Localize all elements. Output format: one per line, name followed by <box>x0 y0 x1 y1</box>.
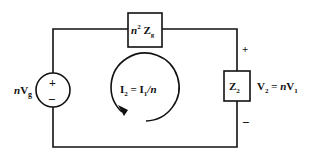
load-impedance-label: Z2 <box>229 81 240 95</box>
loop-current-label: I2 = I1/n <box>120 84 157 98</box>
circuit-diagram: + − nVg n2 Zg I2 = I1/n Z2 + − V2 = nV1 <box>0 0 313 161</box>
wire-left-top <box>53 29 128 73</box>
wire-bottom <box>53 101 237 147</box>
output-plus: + <box>242 44 248 55</box>
source-minus: − <box>48 93 55 106</box>
wire-right-top <box>162 29 237 71</box>
output-minus: − <box>242 116 249 129</box>
source-plus: + <box>49 77 56 89</box>
series-impedance-label: n2 Zg <box>131 24 154 39</box>
source-label: nVg <box>14 85 32 99</box>
output-voltage-label: V2 = nV1 <box>257 81 298 95</box>
